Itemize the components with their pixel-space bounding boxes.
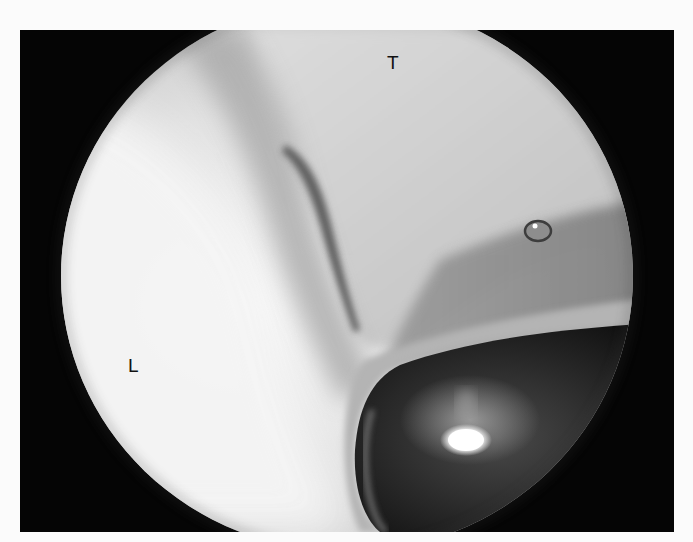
label-t: T (387, 53, 399, 72)
arthroscopy-frame: T L (20, 30, 674, 532)
figure-page: T L (0, 0, 693, 542)
label-l: L (128, 356, 139, 375)
arthroscopic-field-of-view (20, 30, 674, 532)
